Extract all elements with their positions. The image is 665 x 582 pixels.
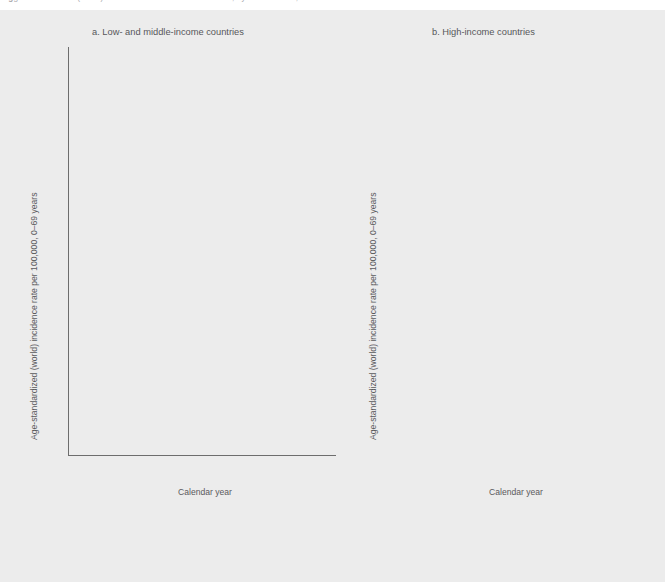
panel-a-plot (0, 10, 340, 510)
figure-caption: Figure Age-standardized (world) incidenc… (0, 0, 665, 9)
figure-caption-text: Age-standardized (world) incidence rates… (8, 0, 341, 2)
panel-b-plot (340, 10, 665, 510)
figure-root: Figure Age-standardized (world) incidenc… (0, 0, 665, 582)
